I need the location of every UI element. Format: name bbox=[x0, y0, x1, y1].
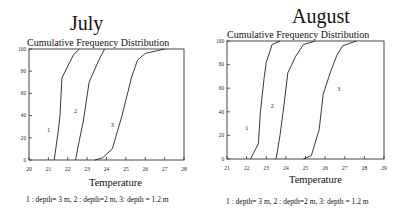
august-y-tick-label: 0 bbox=[221, 156, 224, 162]
august-y-tick-label: 20 bbox=[219, 132, 225, 138]
july-x-tick-label: 28 bbox=[181, 166, 187, 172]
august-y-tick-label: 80 bbox=[219, 61, 225, 67]
august-x-tick-label: 24 bbox=[283, 165, 289, 171]
august-series-1-line bbox=[251, 41, 281, 159]
july-series-3-label: 3 bbox=[111, 122, 114, 128]
august-legend-caption: 1 : depth= 3 m, 2 : depth=2 m, 3: depth … bbox=[226, 197, 369, 206]
august-x-tick-label: 28 bbox=[362, 165, 368, 171]
august-series-1-label: 1 bbox=[245, 125, 248, 131]
july-series-1-line bbox=[54, 49, 79, 160]
july-y-tick-label: 80 bbox=[21, 68, 27, 74]
august-x-tick-label: 22 bbox=[244, 165, 250, 171]
july-y-tick-label: 60 bbox=[21, 90, 27, 96]
july-x-tick-label: 26 bbox=[143, 166, 149, 172]
july-series-2-label: 2 bbox=[74, 108, 77, 114]
august-x-tick-label: 27 bbox=[342, 165, 348, 171]
august-x-tick-label: 26 bbox=[322, 165, 328, 171]
july-plot-frame bbox=[29, 49, 184, 160]
august-x-tick-label: 23 bbox=[264, 165, 270, 171]
august-y-tick-label: 60 bbox=[219, 85, 225, 91]
july-x-tick-label: 23 bbox=[84, 166, 90, 172]
july-y-tick-label: 100 bbox=[18, 46, 26, 52]
july-x-tick-label: 27 bbox=[162, 166, 168, 172]
july-x-tick-label: 22 bbox=[65, 166, 71, 172]
july-y-tick-label: 40 bbox=[21, 112, 27, 118]
august-x-axis-label: Temperature bbox=[289, 174, 342, 185]
july-series-2-line bbox=[76, 49, 105, 160]
july-x-axis-label: Temperature bbox=[89, 177, 142, 188]
august-plot-frame bbox=[227, 41, 384, 159]
august-series-3-line bbox=[304, 41, 357, 159]
august-x-tick-label: 25 bbox=[303, 165, 309, 171]
august-y-tick-label: 100 bbox=[216, 38, 224, 44]
july-x-tick-label: 20 bbox=[26, 166, 32, 172]
august-x-tick-label: 29 bbox=[381, 165, 387, 171]
july-y-tick-label: 20 bbox=[21, 135, 27, 141]
august-series-2-line bbox=[276, 41, 315, 159]
august-series-3-label: 3 bbox=[337, 86, 340, 92]
august-x-tick-label: 21 bbox=[224, 165, 230, 171]
august-panel: August Cumulative Frequency Distribution… bbox=[200, 0, 400, 212]
july-panel: July Cumulative Frequency Distribution 0… bbox=[0, 0, 200, 212]
july-legend-caption: 1 : depth= 3 m, 2 : depth=2 m, 3: depth … bbox=[26, 195, 169, 204]
july-y-tick-label: 0 bbox=[23, 157, 26, 163]
july-x-tick-label: 24 bbox=[104, 166, 110, 172]
july-x-tick-label: 21 bbox=[46, 166, 52, 172]
august-series-2-label: 2 bbox=[271, 103, 274, 109]
july-series-3-line bbox=[95, 49, 165, 160]
august-y-tick-label: 40 bbox=[219, 109, 225, 115]
july-series-1-label: 1 bbox=[47, 127, 50, 133]
july-x-tick-label: 25 bbox=[123, 166, 129, 172]
